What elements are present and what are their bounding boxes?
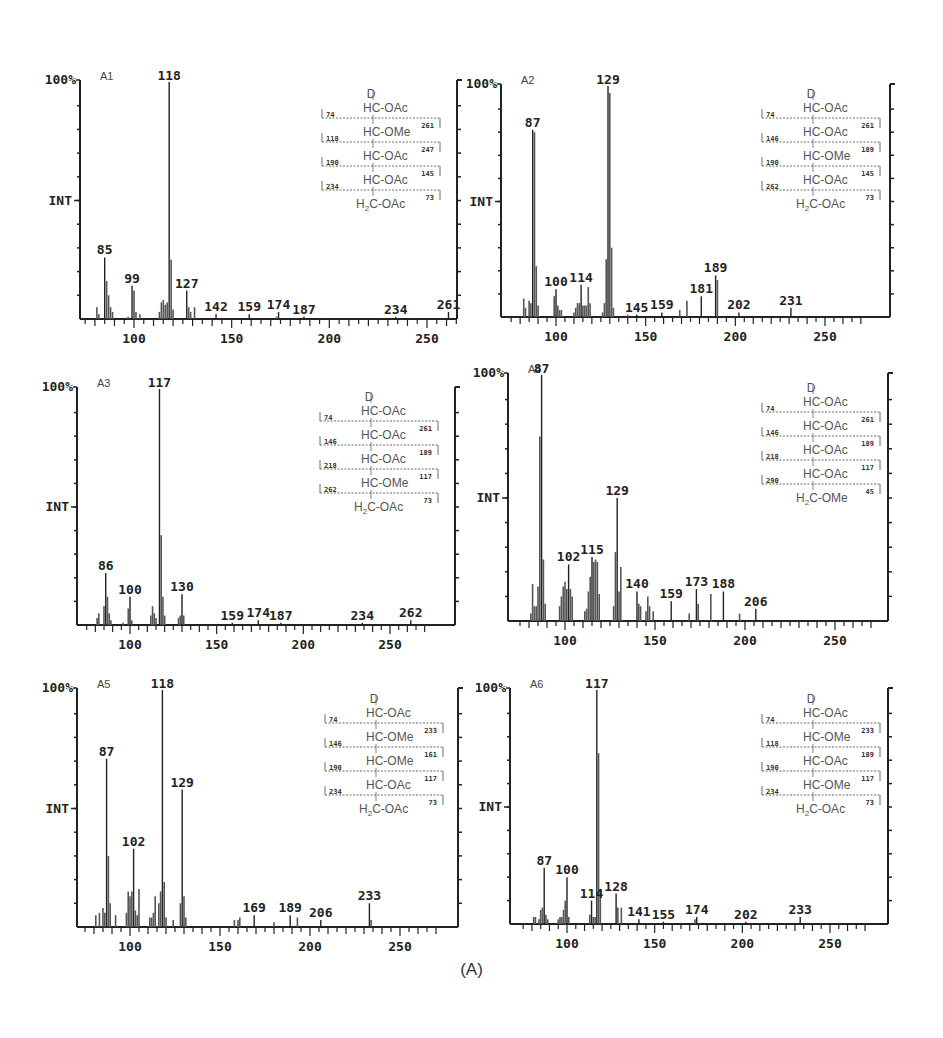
svg-text:190: 190 bbox=[766, 764, 779, 772]
y-top-label: 100% bbox=[475, 680, 506, 695]
svg-text:HC-OAc: HC-OAc bbox=[803, 754, 848, 768]
y-axis-label: INT bbox=[479, 799, 503, 814]
structure-diagram: DHC-OAcHC-OMeHC-OAcHC-OMeH2C-OAc74233118… bbox=[762, 692, 880, 818]
x-tick-label: 100 bbox=[555, 936, 579, 951]
peak-label: 100 bbox=[555, 862, 579, 877]
svg-text:HC-OMe: HC-OMe bbox=[803, 778, 851, 792]
peak-label: 141 bbox=[627, 904, 651, 919]
svg-text:234: 234 bbox=[766, 788, 779, 796]
svg-text:74: 74 bbox=[766, 716, 774, 724]
x-tick-label: 200 bbox=[731, 936, 755, 951]
peak-label: 233 bbox=[788, 902, 811, 917]
peak-label: 202 bbox=[734, 907, 757, 922]
x-tick-label: 150 bbox=[643, 936, 667, 951]
figure-caption: (A) bbox=[0, 960, 943, 980]
panel-label: A6 bbox=[530, 678, 543, 690]
peak-label: 128 bbox=[604, 879, 628, 894]
peak-label: 174 bbox=[685, 902, 709, 917]
svg-text:HC-OAc: HC-OAc bbox=[803, 706, 848, 720]
x-tick-label: 250 bbox=[818, 936, 842, 951]
svg-text:73: 73 bbox=[866, 799, 874, 807]
svg-text:117: 117 bbox=[861, 775, 874, 783]
peaks bbox=[534, 690, 801, 924]
peak-label: 117 bbox=[585, 676, 608, 691]
svg-text:HC-OMe: HC-OMe bbox=[803, 730, 851, 744]
peak-label: 114 bbox=[580, 886, 604, 901]
spectrum-plot: 100150200250100%INTA68710011411712814115… bbox=[0, 0, 943, 1038]
svg-text:H2C-OAc: H2C-OAc bbox=[796, 802, 845, 818]
svg-text:D: D bbox=[807, 692, 816, 706]
peak-label: 155 bbox=[652, 907, 675, 922]
svg-text:233: 233 bbox=[861, 727, 874, 735]
svg-text:118: 118 bbox=[766, 740, 779, 748]
svg-text:189: 189 bbox=[861, 751, 874, 759]
peak-label: 87 bbox=[536, 853, 552, 868]
